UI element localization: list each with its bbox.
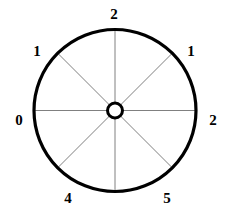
label-lower-left: 4	[64, 191, 72, 206]
label-right: 2	[209, 113, 217, 128]
spoke-upper-right	[120, 53, 172, 105]
label-left: 0	[15, 113, 23, 128]
spoke-lower-right	[120, 116, 172, 168]
label-upper-right: 1	[187, 44, 195, 59]
label-top: 2	[110, 7, 118, 22]
wheel-graphic	[0, 0, 230, 218]
center-hub-circle	[108, 103, 123, 118]
sector-wheel-diagram: 0 1 2 1 2 4 5	[0, 0, 230, 218]
label-lower-right: 5	[163, 191, 171, 206]
label-upper-left: 1	[33, 44, 41, 59]
spoke-upper-left	[58, 53, 110, 105]
spoke-lower-left	[58, 116, 110, 168]
